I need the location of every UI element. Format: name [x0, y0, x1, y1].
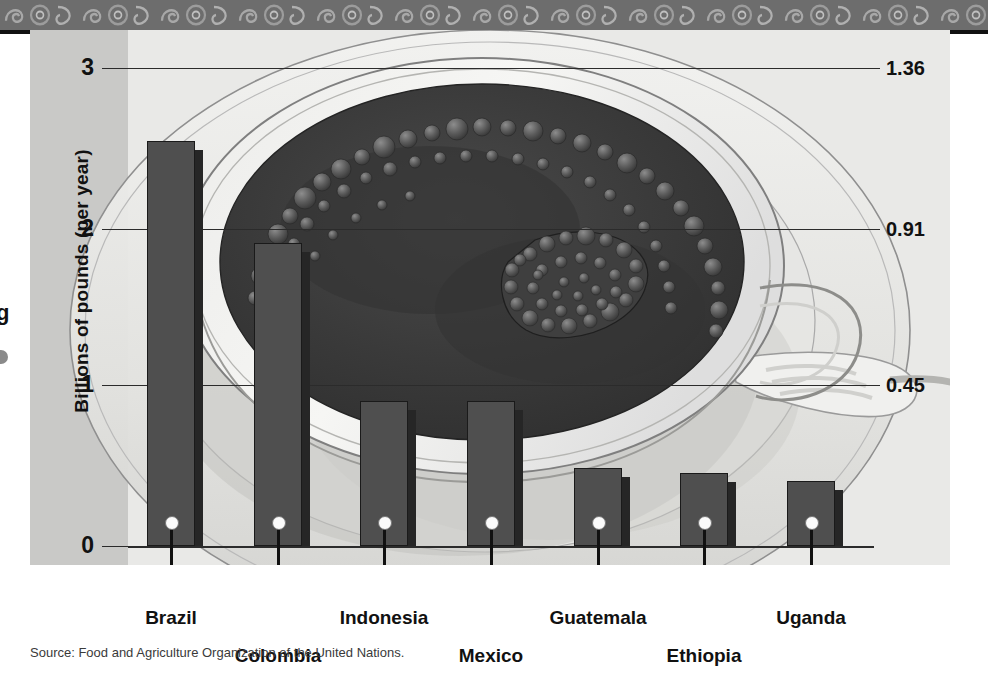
tick-stub-3: [102, 68, 128, 69]
tick-stub-right-136: [850, 68, 880, 69]
y2-tick-label-091: 0.91: [886, 219, 925, 239]
category-label-uganda: Uganda: [776, 608, 846, 627]
tick-stub-2: [102, 229, 128, 230]
pin-head: [592, 516, 606, 530]
bar-shadow: [622, 477, 630, 546]
gridline-2: [128, 229, 874, 230]
swirl-pattern-icon: [0, 0, 988, 30]
bar-shadow: [835, 490, 843, 546]
pin-head: [805, 516, 819, 530]
x-axis-line: [128, 546, 874, 548]
y2-tick-label-045: 0.45: [886, 375, 925, 395]
bar-brazil[interactable]: [147, 141, 195, 546]
y2-tick-label-136: 1.36: [886, 58, 925, 78]
bar-shadow: [515, 410, 523, 546]
clipped-edge-glyph: g: [0, 300, 9, 326]
pin-head: [165, 516, 179, 530]
y-tick-label-0: 0: [81, 534, 94, 557]
pin-head: [698, 516, 712, 530]
y-axis-title: Billions of pounds (per year): [71, 81, 93, 481]
bar-colombia[interactable]: [254, 243, 302, 546]
bar-shadow: [408, 410, 416, 546]
y-tick-label-3: 3: [81, 56, 94, 79]
tick-stub-0: [102, 546, 128, 547]
tick-stub-1: [102, 385, 128, 386]
chart-panel: 3 2 1 0 1.36 0.91 0.45 Billions of pound…: [30, 30, 950, 565]
pin-head: [485, 516, 499, 530]
gridline-1: [128, 385, 874, 386]
bar-shadow: [728, 482, 736, 546]
bar-shadow: [195, 150, 203, 546]
clipped-edge-dot: [0, 350, 8, 364]
bar-shadow: [302, 252, 310, 546]
category-label-mexico: Mexico: [459, 646, 523, 665]
tick-stub-right-045: [850, 385, 880, 386]
category-label-guatemala: Guatemala: [549, 608, 646, 627]
tick-stub-right-091: [850, 229, 880, 230]
decorative-top-band: [0, 0, 988, 34]
source-note: Source: Food and Agriculture Organizatio…: [30, 645, 404, 660]
pin-head: [378, 516, 392, 530]
category-label-indonesia: Indonesia: [340, 608, 429, 627]
category-label-ethiopia: Ethiopia: [667, 646, 742, 665]
category-label-brazil: Brazil: [145, 608, 197, 627]
pin-head: [272, 516, 286, 530]
gridline-3: [128, 68, 874, 69]
